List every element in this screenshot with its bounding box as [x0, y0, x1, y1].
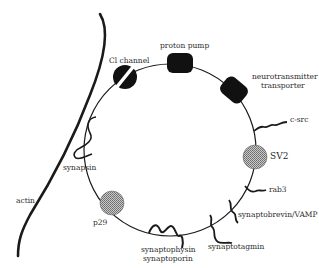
label-cl-channel: Cl channel — [109, 56, 150, 65]
label-synaptoporin: synaptoporin — [143, 254, 193, 263]
label-c-src: c-src — [290, 115, 308, 124]
label-p29: p29 — [93, 218, 107, 227]
proton-pump-icon — [167, 53, 193, 73]
label-proton-pump: proton pump — [160, 41, 209, 50]
sv2-icon — [243, 145, 267, 169]
label-sv2: SV2 — [270, 152, 288, 161]
label-nt-transporter-line2: transporter — [261, 81, 305, 90]
label-synapsin: synapsin — [63, 163, 96, 172]
label-nt-transporter-line1: neurotransmitter — [252, 72, 318, 81]
label-synaptophysin: synaptophysin — [141, 245, 196, 254]
vesicle-diagram: Cl channel proton pump neurotransmitter … — [0, 0, 319, 268]
p29-icon — [100, 191, 124, 215]
label-synaptotagmin: synaptotagmin — [208, 242, 264, 251]
actin-filament — [18, 14, 105, 256]
c-src-icon — [254, 122, 287, 131]
nt-transporter-icon — [218, 74, 251, 106]
label-actin: actin — [16, 196, 35, 205]
label-synaptobrevin: synaptobrevin/VAMP — [238, 210, 318, 219]
label-rab3: rab3 — [269, 185, 287, 194]
cl-channel-icon — [113, 65, 137, 89]
